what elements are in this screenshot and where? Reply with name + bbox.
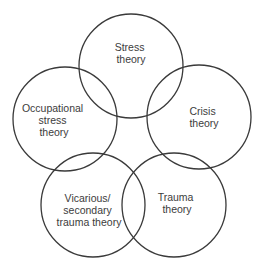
theory-overlap-diagram: Stress theory Occupational stress theory… <box>0 0 262 269</box>
label-line: stress <box>39 114 67 126</box>
label-vicarious-secondary-trauma-theory: Vicarious/ secondary trauma theory <box>57 192 123 228</box>
label-line: Occupational <box>22 102 83 114</box>
label-line: theory <box>189 117 219 129</box>
label-line: theory <box>39 126 69 138</box>
label-line: secondary <box>63 204 112 216</box>
label-line: Stress <box>115 41 145 53</box>
label-line: Vicarious/ <box>65 192 111 204</box>
label-line: trauma theory <box>57 216 123 228</box>
label-crisis-theory: Crisis theory <box>189 105 219 129</box>
label-line: theory <box>162 203 192 215</box>
label-line: Crisis <box>189 105 215 117</box>
label-stress-theory: Stress theory <box>115 41 148 65</box>
label-line: theory <box>116 53 146 65</box>
label-trauma-theory: Trauma theory <box>158 191 197 215</box>
label-line: Trauma <box>158 191 194 203</box>
